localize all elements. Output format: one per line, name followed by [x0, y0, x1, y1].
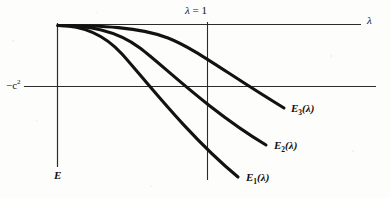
eigenvalue-branches-figure: λ λ = 1 −c2 E E3(λ) E2(λ) E1(λ): [0, 0, 391, 198]
lambda-equals-one-label: λ = 1: [185, 5, 207, 16]
curve-label-E1-arg: (λ): [257, 171, 269, 183]
curve-E1: [58, 26, 238, 178]
curve-label-E1: E1(λ): [246, 172, 269, 186]
curve-E3: [58, 26, 284, 109]
curve-label-E2: E2(λ): [274, 140, 297, 154]
energy-axis-label: E: [54, 170, 61, 181]
neg-c-squared-label: −c2: [6, 79, 21, 91]
curve-label-E3: E3(λ): [291, 103, 314, 117]
curve-label-E3-arg: (λ): [302, 102, 314, 114]
curve-label-E2-arg: (λ): [285, 139, 297, 151]
lambda-equals-one-rest: = 1: [190, 4, 207, 16]
lambda-axis-label: λ: [367, 15, 372, 26]
neg-c-squared-exponent: 2: [17, 78, 21, 86]
curve-E2: [58, 26, 266, 146]
neg-c-squared-base: −c: [6, 79, 17, 91]
